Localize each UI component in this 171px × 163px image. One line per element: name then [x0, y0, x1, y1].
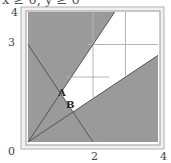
point-b-label: B	[66, 99, 74, 110]
x-tick-4: 4	[160, 150, 167, 163]
y-tick-4: 4	[11, 6, 18, 19]
x-tick-2: 2	[91, 150, 98, 163]
x-tick-0: 0	[8, 145, 15, 158]
y-tick-3: 3	[8, 36, 15, 49]
point-a-label: A	[57, 87, 66, 98]
feasible-region-plot: A B	[0, 0, 171, 163]
